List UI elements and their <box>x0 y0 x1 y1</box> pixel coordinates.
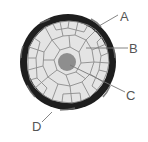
label-c: C <box>126 88 135 103</box>
label-d: D <box>32 119 41 134</box>
leader-line-d <box>42 112 52 122</box>
leader-line-a <box>99 15 118 26</box>
cross-section-diagram: A B C D <box>0 0 148 142</box>
label-a: A <box>120 9 129 24</box>
central-core <box>58 53 76 71</box>
label-b: B <box>129 41 138 56</box>
